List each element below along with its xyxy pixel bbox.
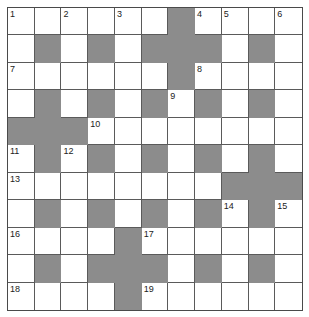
- answer-cell[interactable]: [8, 35, 35, 62]
- clue-number: 15: [277, 201, 287, 211]
- answer-cell[interactable]: [222, 255, 249, 282]
- answer-cell[interactable]: 9: [168, 90, 195, 117]
- answer-cell[interactable]: 4: [195, 8, 222, 35]
- answer-cell[interactable]: 14: [222, 200, 249, 227]
- answer-cell[interactable]: [61, 173, 88, 200]
- answer-cell[interactable]: [222, 283, 249, 310]
- clue-number: 9: [170, 91, 175, 101]
- answer-cell[interactable]: [88, 283, 115, 310]
- answer-cell[interactable]: 5: [222, 8, 249, 35]
- clue-number: 6: [277, 9, 282, 19]
- answer-cell[interactable]: [61, 90, 88, 117]
- answer-cell[interactable]: [168, 173, 195, 200]
- answer-cell[interactable]: [115, 63, 142, 90]
- answer-cell[interactable]: [35, 228, 62, 255]
- answer-cell[interactable]: 6: [275, 8, 302, 35]
- block-cell: [142, 90, 169, 117]
- answer-cell[interactable]: [88, 63, 115, 90]
- answer-cell[interactable]: [275, 283, 302, 310]
- answer-cell[interactable]: [142, 63, 169, 90]
- answer-cell[interactable]: [88, 173, 115, 200]
- answer-cell[interactable]: 16: [8, 228, 35, 255]
- answer-cell[interactable]: [8, 255, 35, 282]
- answer-cell[interactable]: [168, 283, 195, 310]
- answer-cell[interactable]: 19: [142, 283, 169, 310]
- answer-cell[interactable]: [275, 63, 302, 90]
- answer-cell[interactable]: [35, 173, 62, 200]
- answer-cell[interactable]: [249, 283, 276, 310]
- answer-cell[interactable]: 8: [195, 63, 222, 90]
- answer-cell[interactable]: [249, 118, 276, 145]
- answer-cell[interactable]: 17: [142, 228, 169, 255]
- clue-number: 13: [10, 174, 20, 184]
- answer-cell[interactable]: [142, 118, 169, 145]
- answer-cell[interactable]: [61, 200, 88, 227]
- answer-cell[interactable]: [222, 145, 249, 172]
- answer-cell[interactable]: 10: [88, 118, 115, 145]
- answer-cell[interactable]: [195, 283, 222, 310]
- answer-cell[interactable]: [61, 255, 88, 282]
- answer-cell[interactable]: [168, 228, 195, 255]
- answer-cell[interactable]: [115, 118, 142, 145]
- answer-cell[interactable]: [195, 228, 222, 255]
- answer-cell[interactable]: [88, 228, 115, 255]
- answer-cell[interactable]: 15: [275, 200, 302, 227]
- block-cell: [275, 173, 302, 200]
- answer-cell[interactable]: [115, 200, 142, 227]
- answer-cell[interactable]: [222, 118, 249, 145]
- answer-cell[interactable]: 13: [8, 173, 35, 200]
- answer-cell[interactable]: [275, 118, 302, 145]
- clue-number: 1: [10, 9, 15, 19]
- answer-cell[interactable]: [8, 90, 35, 117]
- answer-cell[interactable]: [61, 35, 88, 62]
- answer-cell[interactable]: [142, 173, 169, 200]
- answer-cell[interactable]: [249, 8, 276, 35]
- answer-cell[interactable]: [275, 228, 302, 255]
- answer-cell[interactable]: [168, 118, 195, 145]
- answer-cell[interactable]: [222, 90, 249, 117]
- block-cell: [35, 200, 62, 227]
- block-cell: [35, 145, 62, 172]
- answer-cell[interactable]: [115, 173, 142, 200]
- answer-cell[interactable]: [115, 90, 142, 117]
- block-cell: [222, 173, 249, 200]
- answer-cell[interactable]: [8, 200, 35, 227]
- answer-cell[interactable]: 3: [115, 8, 142, 35]
- block-cell: [168, 8, 195, 35]
- block-cell: [142, 35, 169, 62]
- answer-cell[interactable]: 2: [61, 8, 88, 35]
- answer-cell[interactable]: [275, 255, 302, 282]
- answer-cell[interactable]: [142, 8, 169, 35]
- answer-cell[interactable]: [249, 228, 276, 255]
- answer-cell[interactable]: [222, 63, 249, 90]
- answer-cell[interactable]: 12: [61, 145, 88, 172]
- answer-cell[interactable]: [115, 145, 142, 172]
- answer-cell[interactable]: [275, 90, 302, 117]
- answer-cell[interactable]: [275, 145, 302, 172]
- answer-cell[interactable]: [35, 283, 62, 310]
- answer-cell[interactable]: 7: [8, 63, 35, 90]
- answer-cell[interactable]: [222, 35, 249, 62]
- answer-cell[interactable]: [249, 63, 276, 90]
- answer-cell[interactable]: 18: [8, 283, 35, 310]
- clue-number: 17: [144, 229, 154, 239]
- clue-number: 11: [10, 146, 19, 156]
- answer-cell[interactable]: 1: [8, 8, 35, 35]
- answer-cell[interactable]: [61, 228, 88, 255]
- answer-cell[interactable]: [195, 173, 222, 200]
- answer-cell[interactable]: [168, 200, 195, 227]
- crossword-grid: 12345678910111213141516171819: [7, 7, 303, 311]
- answer-cell[interactable]: 11: [8, 145, 35, 172]
- clue-number: 19: [144, 284, 154, 294]
- answer-cell[interactable]: [35, 63, 62, 90]
- answer-cell[interactable]: [35, 8, 62, 35]
- answer-cell[interactable]: [275, 35, 302, 62]
- answer-cell[interactable]: [61, 63, 88, 90]
- answer-cell[interactable]: [88, 8, 115, 35]
- answer-cell[interactable]: [195, 118, 222, 145]
- answer-cell[interactable]: [61, 283, 88, 310]
- answer-cell[interactable]: [168, 145, 195, 172]
- answer-cell[interactable]: [168, 255, 195, 282]
- answer-cell[interactable]: [115, 35, 142, 62]
- answer-cell[interactable]: [222, 228, 249, 255]
